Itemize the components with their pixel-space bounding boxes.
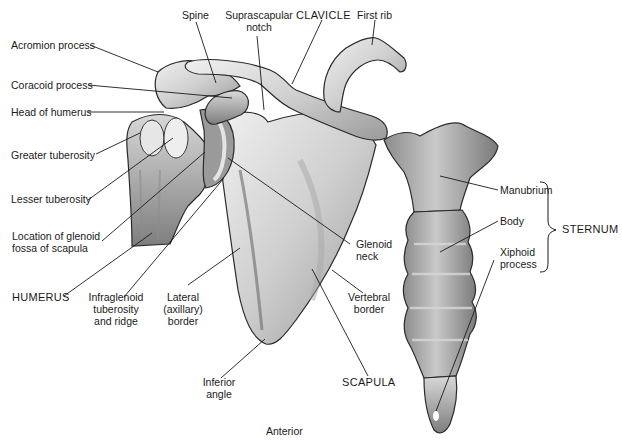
label-body: Body xyxy=(500,215,524,227)
humerus-bone xyxy=(127,115,211,247)
label-suprascapular-line2: notch xyxy=(224,21,294,33)
label-scapula: SCAPULA xyxy=(342,376,395,388)
first-rib-bone xyxy=(324,38,406,112)
label-clavicle: CLAVICLE xyxy=(296,9,351,21)
label-xiphoid-process: Xiphoid process xyxy=(500,246,537,270)
label-coracoid-process: Coracoid process xyxy=(11,79,93,91)
label-greater-tuberosity: Greater tuberosity xyxy=(11,149,95,161)
label-inferior-angle: Inferior angle xyxy=(198,376,240,400)
label-lateral-line3: border xyxy=(158,315,208,327)
label-glenoid-location-line2: fossa of scapula xyxy=(12,242,100,254)
shoulder-girdle-illustration xyxy=(0,0,622,442)
label-lesser-tuberosity: Lesser tuberosity xyxy=(11,193,91,205)
label-xiphoid-line2: process xyxy=(500,258,537,270)
label-xiphoid-line1: Xiphoid xyxy=(500,246,537,258)
label-infraglenoid-line3: and ridge xyxy=(84,315,148,327)
label-sternum: STERNUM xyxy=(562,223,619,235)
label-suprascapular-line1: Suprascapular xyxy=(224,9,294,21)
label-glenoid-neck-line1: Glenoid xyxy=(356,238,392,250)
label-lateral-line2: (axillary) xyxy=(158,303,208,315)
label-lateral-line1: Lateral xyxy=(158,291,208,303)
label-acromion-process: Acromion process xyxy=(11,39,95,51)
view-caption: Anterior xyxy=(266,425,303,437)
label-inferior-line2: angle xyxy=(198,388,240,400)
sternum-bone xyxy=(384,123,498,433)
label-glenoid-location: Location of glenoid fossa of scapula xyxy=(12,230,100,254)
label-vertebral-border: Vertebral border xyxy=(344,291,394,315)
label-infraglenoid-line2: tuberosity xyxy=(84,303,148,315)
label-vertebral-line1: Vertebral xyxy=(344,291,394,303)
label-lateral-border: Lateral (axillary) border xyxy=(158,291,208,327)
label-infraglenoid-line1: Infraglenoid xyxy=(84,291,148,303)
label-manubrium: Manubrium xyxy=(500,184,553,196)
label-humerus: HUMERUS xyxy=(12,291,70,303)
label-infraglenoid: Infraglenoid tuberosity and ridge xyxy=(84,291,148,327)
label-inferior-line1: Inferior xyxy=(198,376,240,388)
label-glenoid-location-line1: Location of glenoid xyxy=(12,230,100,242)
label-vertebral-line2: border xyxy=(344,303,394,315)
label-spine: Spine xyxy=(182,9,209,21)
label-glenoid-neck-line2: neck xyxy=(356,250,392,262)
label-head-of-humerus: Head of humerus xyxy=(11,106,92,118)
label-first-rib: First rib xyxy=(357,9,392,21)
anatomy-figure: Spine Suprascapular notch CLAVICLE First… xyxy=(0,0,622,442)
label-suprascapular-notch: Suprascapular notch xyxy=(224,9,294,33)
label-glenoid-neck: Glenoid neck xyxy=(356,238,392,262)
